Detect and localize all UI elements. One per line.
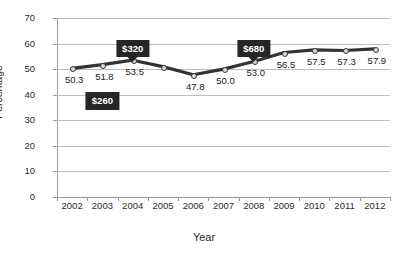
y-tick-label: 20	[0, 141, 35, 151]
data-point	[222, 67, 228, 73]
y-tick-label: 10	[0, 166, 35, 176]
x-tick-label: 2012	[355, 201, 395, 211]
data-point-label: 57.5	[307, 57, 326, 67]
y-tick-label: 0	[0, 192, 35, 202]
y-tick-label: 40	[0, 90, 35, 100]
data-point	[282, 51, 288, 57]
line-chart: Percentage Year 010203040506070200220032…	[0, 0, 408, 253]
data-point-label: 50.0	[216, 76, 235, 86]
data-point-label: 53.0	[247, 68, 266, 78]
data-point	[373, 47, 379, 53]
data-point-label: 57.3	[337, 57, 356, 67]
callout-badge: $680	[237, 40, 270, 58]
y-tick-label: 60	[0, 39, 35, 49]
data-point	[100, 63, 106, 69]
data-point-label: 47.8	[186, 82, 205, 92]
y-tick-label: 30	[0, 115, 35, 125]
x-axis-title: Year	[0, 231, 408, 243]
y-tick-label: 70	[0, 13, 35, 23]
data-point-label: 56.5	[277, 60, 296, 70]
data-point-label: 57.9	[368, 56, 387, 66]
plot-area: 0102030405060702002200320042005200620072…	[57, 18, 390, 197]
y-tick-label: 50	[0, 64, 35, 74]
data-point-label: 51.8	[95, 72, 114, 82]
data-point	[191, 73, 197, 79]
data-point-label: 50.3	[65, 75, 84, 85]
callout-badge: $260	[86, 92, 119, 110]
data-point-label: 53.5	[125, 67, 144, 77]
callout-badge: $320	[116, 40, 149, 58]
data-point	[161, 65, 167, 71]
x-axis-line	[57, 197, 391, 198]
